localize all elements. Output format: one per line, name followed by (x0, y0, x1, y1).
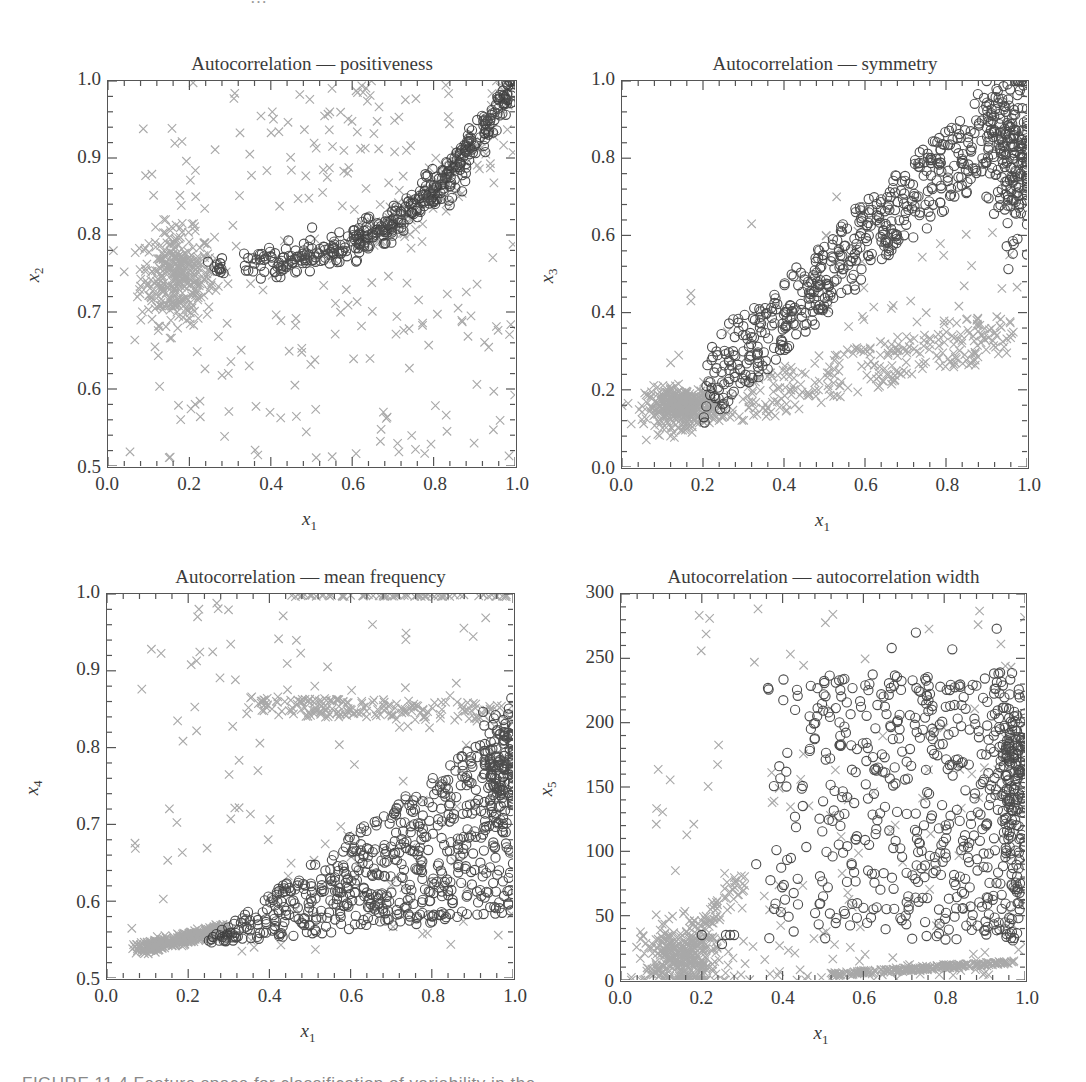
x-tick-label: 0.6 (839, 987, 889, 1009)
y-tick-label: 0.8 (51, 223, 101, 245)
y-tick-label: 0.9 (51, 146, 101, 168)
x-tick-label: 1.0 (1004, 474, 1054, 496)
x-tick-label: 0.6 (326, 985, 376, 1007)
x-tick-label: 0.8 (922, 474, 972, 496)
figure-caption: FIGURE 11.4 Feature space for classifica… (22, 1074, 536, 1082)
x-tick-label: 0.0 (82, 473, 132, 495)
circle-markers (699, 81, 1027, 427)
y-tick-label: 0.6 (565, 224, 615, 246)
x-axis-label: x1 (815, 509, 830, 535)
y-axis-label: x2 (22, 267, 48, 282)
clipped-header-text: … (250, 0, 267, 8)
circle-markers (204, 694, 513, 947)
x-tick-label: 1.0 (492, 473, 542, 495)
y-tick-label: 0.4 (565, 301, 615, 323)
panel-title: Autocorrelation — positiveness (107, 53, 517, 75)
y-axis-label: x4 (21, 780, 47, 795)
x-tick-label: 0.2 (676, 987, 726, 1009)
cross-markers (627, 605, 1025, 980)
y-tick-label: 0.9 (50, 658, 100, 680)
y-tick-label: 0.8 (50, 736, 100, 758)
plot-area (107, 80, 517, 468)
panel-title: Autocorrelation — mean frequency (106, 566, 515, 588)
y-tick-label: 0.2 (565, 379, 615, 401)
y-tick-label: 0.8 (565, 146, 615, 168)
cross-markers (622, 193, 1021, 445)
x-tick-label: 1.0 (490, 985, 540, 1007)
scatter-points (622, 81, 1027, 467)
y-tick-label: 0.6 (50, 891, 100, 913)
x-tick-label: 0.2 (678, 474, 728, 496)
y-tick-label: 1.0 (51, 68, 101, 90)
panel-title: Autocorrelation — autocorrelation width (620, 566, 1027, 588)
cross-markers (109, 81, 515, 462)
y-tick-label: 100 (564, 840, 614, 862)
plot-area (106, 593, 515, 980)
y-tick-label: 200 (564, 711, 614, 733)
y-tick-label: 1.0 (50, 581, 100, 603)
plot-area (621, 80, 1029, 469)
y-tick-label: 50 (564, 905, 614, 927)
x-tick-label: 0.0 (595, 987, 645, 1009)
panel-title: Autocorrelation — symmetry (621, 53, 1029, 75)
circle-markers (697, 624, 1025, 949)
x-tick-label: 0.8 (408, 985, 458, 1007)
x-tick-label: 0.4 (245, 985, 295, 1007)
y-tick-label: 0.7 (51, 301, 101, 323)
x-tick-label: 0.0 (596, 474, 646, 496)
scatter-points (108, 81, 515, 466)
x-tick-label: 0.4 (758, 987, 808, 1009)
y-tick-label: 250 (564, 646, 614, 668)
x-axis-label: x1 (814, 1022, 829, 1048)
x-axis-label: x1 (301, 1020, 316, 1046)
x-tick-label: 1.0 (1002, 987, 1052, 1009)
x-tick-label: 0.4 (246, 473, 296, 495)
x-tick-label: 0.6 (841, 474, 891, 496)
y-tick-label: 150 (564, 776, 614, 798)
x-tick-label: 0.2 (164, 473, 214, 495)
y-tick-label: 0.7 (50, 813, 100, 835)
x-tick-label: 0.0 (81, 985, 131, 1007)
y-tick-label: 1.0 (565, 68, 615, 90)
scatter-points (621, 594, 1025, 980)
x-tick-label: 0.6 (328, 473, 378, 495)
y-axis-label: x5 (535, 781, 561, 796)
x-tick-label: 0.2 (163, 985, 213, 1007)
scatter-points (107, 594, 513, 978)
x-tick-label: 0.8 (410, 473, 460, 495)
plot-area (620, 593, 1027, 982)
circle-markers (203, 81, 515, 283)
x-axis-label: x1 (302, 508, 317, 534)
y-tick-label: 300 (564, 581, 614, 603)
y-axis-label: x3 (536, 268, 562, 283)
x-tick-label: 0.4 (759, 474, 809, 496)
y-tick-label: 0.6 (51, 378, 101, 400)
x-tick-label: 0.8 (921, 987, 971, 1009)
